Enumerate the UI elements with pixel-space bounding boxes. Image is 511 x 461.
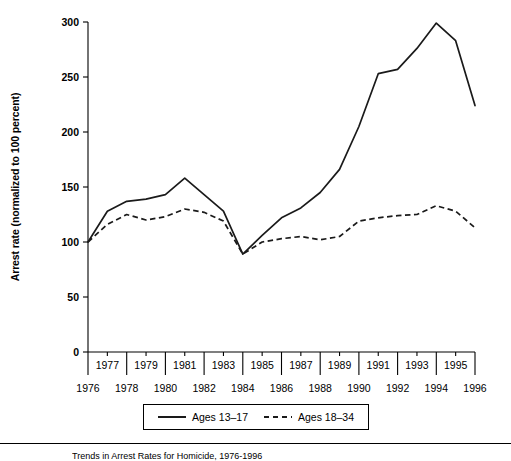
legend-label-1: Ages 18–34 <box>298 411 354 423</box>
x-tick-label-upper: 1977 <box>96 359 120 371</box>
x-tick-label-lower: 1990 <box>347 382 371 394</box>
x-tick-label-upper: 1981 <box>173 359 197 371</box>
legend-entry-0: Ages 13–17 <box>158 411 248 423</box>
x-tick-label-upper: 1979 <box>134 359 158 371</box>
series-line-1 <box>88 206 475 254</box>
figure-caption: Trends in Arrest Rates for Homicide, 197… <box>72 451 492 461</box>
y-tick-label: 0 <box>73 346 79 358</box>
x-tick-label-lower: 1992 <box>386 382 410 394</box>
x-tick-label-lower: 1984 <box>231 382 255 394</box>
line-chart-plot: 050100150200250300 197719791981198319851… <box>0 0 511 400</box>
y-tick-label: 300 <box>61 16 79 28</box>
x-tick-label-upper: 1985 <box>250 359 274 371</box>
x-tick-label-lower: 1982 <box>192 382 216 394</box>
chart-legend: Ages 13–17Ages 18–34 <box>143 404 369 430</box>
x-tick-label-lower: 1980 <box>154 382 178 394</box>
x-tick-label-upper: 1995 <box>444 359 468 371</box>
y-tick-label: 200 <box>61 126 79 138</box>
legend-entry-1: Ages 18–34 <box>264 411 354 423</box>
legend-swatch-dashed-icon <box>264 416 292 418</box>
x-tick-label-lower: 1996 <box>463 382 487 394</box>
axis-group <box>88 22 475 352</box>
x-tick-label-lower: 1994 <box>425 382 449 394</box>
x-tick-label-upper: 1993 <box>405 359 429 371</box>
x-tick-group: 1977197919811983198519871989199119931995… <box>76 352 487 394</box>
x-tick-label-lower: 1976 <box>76 382 100 394</box>
legend-swatch-solid-icon <box>158 416 186 418</box>
x-tick-label-lower: 1986 <box>270 382 294 394</box>
y-tick-group: 050100150200250300 <box>61 16 88 358</box>
x-tick-label-upper: 1991 <box>367 359 391 371</box>
x-tick-label-upper: 1983 <box>212 359 236 371</box>
footer-divider <box>0 443 511 444</box>
y-tick-label: 100 <box>61 236 79 248</box>
x-tick-label-lower: 1978 <box>115 382 139 394</box>
y-tick-label: 250 <box>61 71 79 83</box>
x-tick-label-lower: 1988 <box>309 382 333 394</box>
x-tick-label-upper: 1989 <box>328 359 352 371</box>
y-tick-label: 150 <box>61 181 79 193</box>
legend-label-0: Ages 13–17 <box>192 411 248 423</box>
x-tick-label-upper: 1987 <box>289 359 313 371</box>
y-tick-label: 50 <box>67 291 79 303</box>
series-group <box>88 23 475 254</box>
